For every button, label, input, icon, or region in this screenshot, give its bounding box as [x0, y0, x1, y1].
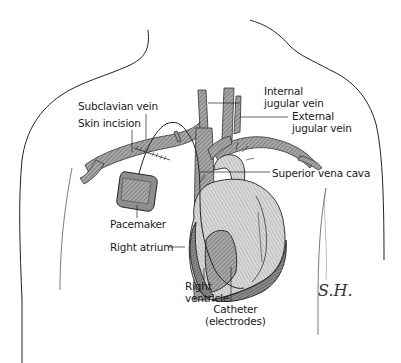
label-catheter-line2: (electrodes) [205, 315, 266, 327]
label-subclavian-vein: Subclavian vein [78, 100, 158, 112]
label-external-jugular-vein-line2: jugular vein [292, 122, 352, 134]
label-superior-vena-cava: Superior vena cava [272, 167, 370, 179]
label-external-jugular-vein-line1: External [292, 110, 352, 122]
label-pacemaker: Pacemaker [110, 218, 166, 230]
label-internal-jugular-vein-line1: Internal [264, 85, 324, 97]
pacemaker-anatomy-illustration [0, 0, 401, 363]
artist-signature: S.H. [318, 281, 353, 300]
label-external-jugular-vein: External jugular vein [292, 110, 352, 134]
label-right-ventricle: Right ventricle [185, 280, 229, 304]
label-catheter: Catheter (electrodes) [205, 303, 266, 327]
label-right-atrium: Right atrium [110, 241, 173, 253]
label-right-ventricle-line1: Right [185, 280, 229, 292]
label-internal-jugular-vein: Internal jugular vein [264, 85, 324, 109]
label-skin-incision: Skin incision [78, 117, 141, 129]
label-catheter-line1: Catheter [205, 303, 266, 315]
label-internal-jugular-vein-line2: jugular vein [264, 97, 324, 109]
